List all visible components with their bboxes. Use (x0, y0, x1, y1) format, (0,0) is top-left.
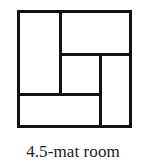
mat-region-center-half (62, 56, 99, 93)
mat-region-west (20, 13, 59, 93)
mat-region-north (62, 13, 129, 53)
figure-caption: 4.5-mat room (0, 141, 146, 162)
mat-region-east (102, 56, 129, 125)
mat-seam-east-vertical (99, 53, 102, 128)
tatami-floor-plan-diagram (17, 10, 132, 128)
mat-seam-south-horizontal (17, 93, 102, 96)
tatami-room-figure: 4.5-mat room (0, 0, 146, 168)
mat-seam-north-horizontal (59, 53, 132, 56)
mat-region-south (20, 96, 99, 125)
